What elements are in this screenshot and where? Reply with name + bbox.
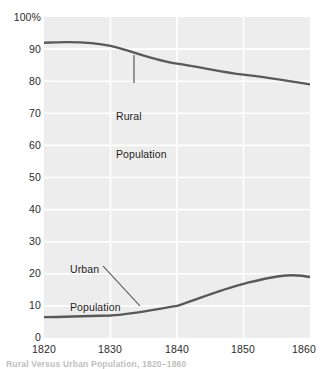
y-tick-label-70: 70 [1,108,41,119]
y-tick-label-30: 30 [1,236,41,247]
y-tick-label-60: 60 [1,140,41,151]
y-tick-label-20: 20 [1,268,41,279]
series-annotation-urban: Urban Population [70,238,121,338]
x-tick-label-1820: 1820 [19,343,69,355]
y-tick-label-0: 0 [1,332,41,343]
figure-caption: Rural Versus Urban Population, 1820–1860 [6,359,186,369]
y-tick-label-100: 100% [1,12,41,23]
y-tick-label-50: 50 [1,172,41,183]
y-axis: 100% 90 80 70 60 50 40 30 20 10 0 [0,0,41,367]
urban-annotation-line-1: Urban [70,263,121,276]
series-annotation-rural: Rural Population [116,85,167,185]
y-tick-label-40: 40 [1,204,41,215]
rural-annotation-line-2: Population [116,148,167,161]
y-tick-label-90: 90 [1,44,41,55]
urban-annotation-line-2: Population [70,301,121,314]
plot-area: Rural Population Urban Population [44,17,310,338]
x-tick-label-1830: 1830 [85,343,135,355]
x-tick-label-1840: 1840 [152,343,202,355]
x-axis: 1820 1830 1840 1850 1860 [0,343,322,359]
rural-annotation-line-1: Rural [116,110,167,123]
x-tick-label-1850: 1850 [218,343,268,355]
x-tick-label-1860: 1860 [279,343,322,355]
y-tick-label-80: 80 [1,76,41,87]
y-tick-label-10: 10 [1,300,41,311]
